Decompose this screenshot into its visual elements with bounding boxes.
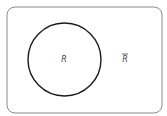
complement-label: R: [122, 55, 128, 64]
venn-diagram: R R: [0, 0, 167, 116]
universe-rectangle: [7, 7, 162, 113]
set-r-label: R: [61, 55, 67, 64]
